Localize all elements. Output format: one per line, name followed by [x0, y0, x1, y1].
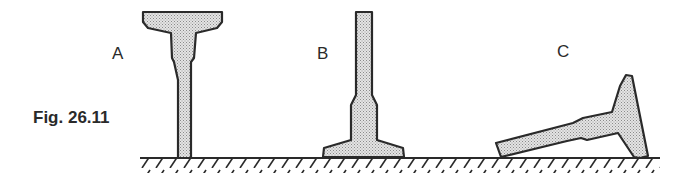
- object-c-shape: [496, 75, 648, 158]
- ground-surface: [140, 158, 660, 173]
- label-c: C: [557, 42, 569, 62]
- label-b: B: [317, 44, 328, 64]
- object-a-shape: [143, 12, 222, 158]
- label-a: A: [112, 44, 123, 64]
- figure-caption: Fig. 26.11: [33, 108, 110, 128]
- figure-canvas: A B C Fig. 26.11: [0, 0, 685, 188]
- figure-drawing: [0, 0, 685, 188]
- object-b-shape: [323, 12, 404, 157]
